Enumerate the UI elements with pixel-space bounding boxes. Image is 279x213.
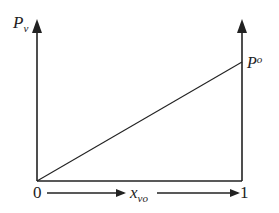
raoult-law-diagram: Pv Po 0 xvo 1 — [0, 0, 279, 213]
x-end-label: 1 — [240, 183, 249, 202]
vapor-pressure-line — [37, 62, 242, 181]
y-axis-label: Pv — [12, 13, 28, 34]
right-axis-arrow-icon — [237, 19, 247, 33]
x-axis-label: xvo — [129, 183, 148, 204]
left-axis-arrow-icon — [32, 19, 42, 33]
x-arrow-right-head-icon — [230, 189, 240, 197]
x-arrow-left-head-icon — [116, 189, 126, 197]
x-start-label: 0 — [33, 183, 42, 202]
line-end-label: Po — [246, 53, 263, 71]
